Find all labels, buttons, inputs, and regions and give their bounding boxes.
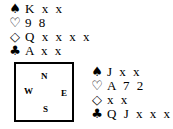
east-spades-row: ♠ J x x xyxy=(90,65,172,79)
east-hearts-row: ♡ A 7 2 xyxy=(90,79,172,93)
heart-icon: ♡ xyxy=(8,16,22,30)
east-clubs-cards: Q J x x x xyxy=(107,107,172,121)
compass-east-label: E xyxy=(61,88,67,98)
east-spades-cards: J x x xyxy=(107,65,142,79)
club-icon: ♣ xyxy=(8,44,22,58)
spade-icon: ♠ xyxy=(8,2,22,16)
north-spades-row: ♠ K x x xyxy=(8,2,91,16)
north-diamonds-cards: Q x x x x xyxy=(25,30,91,44)
north-hearts-row: ♡ 9 8 xyxy=(8,16,91,30)
north-clubs-row: ♣ A x x xyxy=(8,44,91,58)
compass-north-label: N xyxy=(41,71,48,81)
east-diamonds-cards: x x xyxy=(107,93,129,107)
east-hand: ♠ J x x ♡ A 7 2 ◇ x x ♣ Q J x x x xyxy=(90,65,172,121)
compass-box: N W E S xyxy=(14,62,74,122)
east-hearts-cards: A 7 2 xyxy=(107,79,145,93)
club-icon: ♣ xyxy=(90,107,104,121)
north-hearts-cards: 9 8 xyxy=(25,16,47,30)
east-diamonds-row: ◇ x x xyxy=(90,93,172,107)
north-diamonds-row: ◇ Q x x x x xyxy=(8,30,91,44)
spade-icon: ♠ xyxy=(90,65,104,79)
compass-west-label: W xyxy=(24,86,33,96)
north-hand: ♠ K x x ♡ 9 8 ◇ Q x x x x ♣ A x x xyxy=(8,2,91,58)
heart-icon: ♡ xyxy=(90,79,104,93)
north-clubs-cards: A x x xyxy=(25,44,63,58)
diamond-icon: ◇ xyxy=(90,93,104,107)
east-clubs-row: ♣ Q J x x x xyxy=(90,107,172,121)
diamond-icon: ◇ xyxy=(8,30,22,44)
compass-south-label: S xyxy=(43,104,48,114)
north-spades-cards: K x x xyxy=(25,2,64,16)
